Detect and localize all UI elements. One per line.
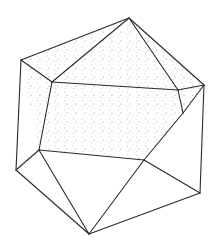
polyhedron-figure <box>0 0 217 250</box>
